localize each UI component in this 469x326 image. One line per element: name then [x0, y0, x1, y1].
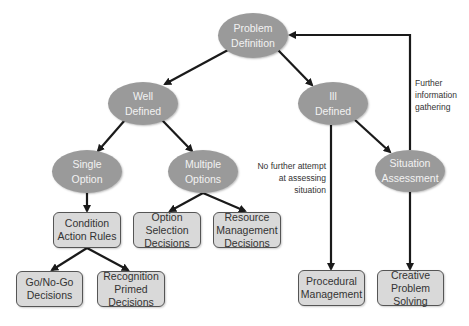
node-well-defined: Well Defined [108, 82, 178, 125]
node-multiple-options: Multiple Options [168, 150, 238, 193]
node-situation-assessment: Situation Assessment [375, 150, 445, 192]
edge-condition-to-gonogo [52, 248, 87, 270]
box-resource-management-decisions: Resource Management Decisions [213, 212, 281, 248]
box-recognition-primed-decisions: Recognition Primed Decisions [97, 271, 165, 307]
annotation-no-further-attempt: No further attempt at assessing situatio… [250, 160, 326, 196]
edge-well-to-multiple [162, 120, 192, 151]
edge-problem-to-well [165, 50, 228, 84]
box-go-no-go-decisions: Go/No-Go Decisions [16, 271, 83, 307]
edge-multiple-to-option [170, 193, 203, 211]
node-problem-definition: Problem Definition [218, 13, 288, 58]
annotation-further-information: Further information gathering [415, 77, 469, 113]
edge-ill-to-situation [355, 120, 390, 152]
edge-well-to-single [98, 120, 125, 151]
edge-condition-to-recognition [87, 248, 128, 270]
box-condition-action-rules: Condition Action Rules [53, 212, 121, 248]
decision-diagram: Problem Definition Well Defined Ill Defi… [0, 0, 469, 326]
box-option-selection-decisions: Option Selection Decisions [133, 212, 201, 248]
edge-multiple-to-resource [203, 193, 245, 211]
box-procedural-management: Procedural Management [298, 270, 365, 306]
edge-problem-to-ill [278, 50, 312, 85]
node-ill-defined: Ill Defined [298, 82, 368, 125]
box-creative-problem-solving: Creative Problem Solving [377, 270, 444, 306]
node-single-option: Single Option [52, 150, 122, 193]
